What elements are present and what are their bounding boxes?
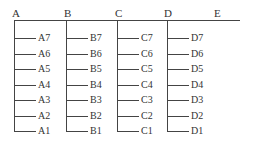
leaf-label: A1	[38, 126, 50, 136]
leaf-label: B4	[90, 80, 102, 90]
branch-line	[117, 85, 139, 86]
leaf-label: C3	[141, 95, 153, 105]
branch-line	[14, 85, 36, 86]
leaf-label: D6	[191, 49, 203, 59]
leaf-label: D5	[191, 64, 203, 74]
leaf-label: D3	[191, 95, 203, 105]
branch-line	[66, 100, 88, 101]
leaf-label: B2	[90, 111, 102, 121]
branch-line	[167, 100, 189, 101]
column-label-b: B	[64, 8, 71, 19]
branch-line	[66, 69, 88, 70]
branch-line	[66, 38, 88, 39]
leaf-label: C2	[141, 111, 153, 121]
branch-line	[167, 131, 189, 132]
branch-line	[167, 69, 189, 70]
column-label-d: D	[164, 8, 172, 19]
column-label-e: E	[214, 8, 221, 19]
leaf-label: D7	[191, 33, 203, 43]
leaf-label: D1	[191, 126, 203, 136]
leaf-label: A3	[38, 95, 50, 105]
branch-line	[14, 100, 36, 101]
branch-line	[167, 85, 189, 86]
leaf-label: C6	[141, 49, 153, 59]
column-label-a: A	[12, 8, 20, 19]
branch-line	[66, 54, 88, 55]
leaf-label: C5	[141, 64, 153, 74]
leaf-label: C1	[141, 126, 153, 136]
top-bus-line	[14, 20, 240, 21]
leaf-label: B5	[90, 64, 102, 74]
leaf-label: A4	[38, 80, 50, 90]
leaf-label: A7	[38, 33, 50, 43]
leaf-label: C4	[141, 80, 153, 90]
branch-line	[14, 131, 36, 132]
branch-line	[66, 116, 88, 117]
branch-line	[117, 38, 139, 39]
column-label-c: C	[115, 8, 122, 19]
branch-line	[117, 131, 139, 132]
leaf-label: B7	[90, 33, 102, 43]
branch-line	[167, 54, 189, 55]
branch-line	[167, 116, 189, 117]
leaf-label: D4	[191, 80, 203, 90]
branch-line	[14, 69, 36, 70]
leaf-label: B1	[90, 126, 102, 136]
branch-line	[117, 54, 139, 55]
branch-line	[14, 54, 36, 55]
branch-line	[66, 131, 88, 132]
branch-line	[117, 69, 139, 70]
branch-line	[14, 38, 36, 39]
branch-line	[167, 38, 189, 39]
branch-line	[117, 100, 139, 101]
branch-line	[14, 116, 36, 117]
leaf-label: D2	[191, 111, 203, 121]
leaf-label: A2	[38, 111, 50, 121]
leaf-label: A5	[38, 64, 50, 74]
branch-line	[66, 85, 88, 86]
leaf-label: B3	[90, 95, 102, 105]
leaf-label: A6	[38, 49, 50, 59]
leaf-label: B6	[90, 49, 102, 59]
leaf-label: C7	[141, 33, 153, 43]
branch-line	[117, 116, 139, 117]
